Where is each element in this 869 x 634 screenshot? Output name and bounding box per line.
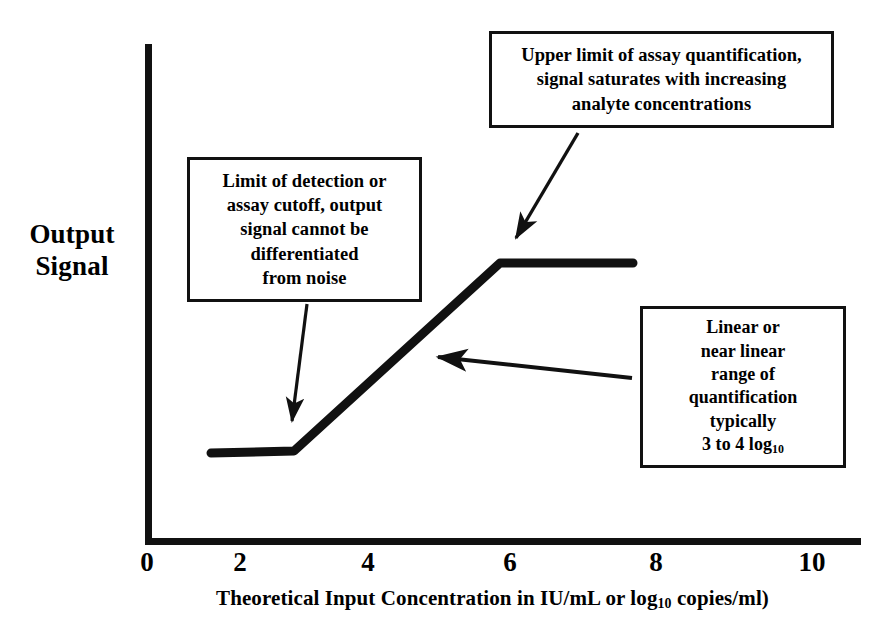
x-tick-label-2: 2	[218, 547, 262, 578]
y-axis-label-line-1: Output	[6, 219, 138, 251]
annotation-linear-log-subscript: 10	[772, 442, 784, 456]
x-axis-line	[145, 538, 861, 545]
y-axis-label: Output Signal	[6, 219, 138, 283]
y-axis-label-line-2: Signal	[6, 251, 138, 283]
x-tick-label-10: 10	[790, 547, 834, 578]
y-axis-line	[145, 44, 152, 545]
arrow-linear-range	[438, 357, 632, 378]
x-axis-label: Theoretical Input Concentration in IU/mL…	[120, 586, 865, 612]
x-axis-label-prefix: Theoretical Input Concentration in IU/mL…	[216, 586, 657, 610]
assay-response-figure: Output Signal 0 2 4 6 8 10 Theoretical I…	[0, 0, 869, 634]
arrow-upper-limit	[516, 133, 578, 238]
x-tick-label-4: 4	[346, 547, 390, 578]
x-axis-label-subscript: 10	[658, 596, 672, 611]
annotation-linear-line-5: typically	[710, 410, 776, 433]
x-tick-label-8: 8	[634, 547, 678, 578]
annotation-box-linear-range: Linear or near linear range of quantific…	[640, 306, 846, 468]
annotation-lod-line-3: signal cannot be	[240, 217, 368, 241]
x-tick-label-6: 6	[488, 547, 532, 578]
arrow-limit-of-detection	[292, 304, 307, 421]
x-tick-label-0: 0	[125, 547, 169, 578]
annotation-upper-limit-line-3: analyte concentrations	[572, 92, 751, 116]
annotation-linear-log-prefix: 3 to 4 log	[702, 434, 772, 454]
x-axis-label-suffix: copies/ml)	[672, 586, 769, 610]
annotation-box-limit-of-detection: Limit of detection or assay cutoff, outp…	[187, 157, 422, 302]
annotation-lod-line-5: from noise	[263, 266, 347, 290]
annotation-box-upper-limit: Upper limit of assay quantification, sig…	[489, 31, 834, 128]
annotation-linear-line-4: quantification	[689, 386, 798, 409]
annotation-upper-limit-line-1: Upper limit of assay quantification,	[521, 43, 802, 67]
annotation-upper-limit-line-2: signal saturates with increasing	[537, 67, 786, 91]
annotation-lod-line-1: Limit of detection or	[223, 169, 387, 193]
annotation-linear-line-1: Linear or	[706, 316, 780, 339]
annotation-linear-line-6: 3 to 4 log10	[702, 433, 784, 457]
annotation-lod-line-2: assay cutoff, output	[227, 193, 383, 217]
annotation-linear-line-2: near linear	[701, 340, 786, 363]
annotation-lod-line-4: differentiated	[250, 242, 358, 266]
annotation-linear-line-3: range of	[711, 363, 775, 386]
